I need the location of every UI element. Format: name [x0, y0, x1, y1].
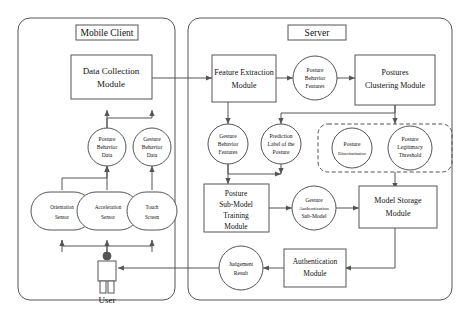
sensor-acceleration-sensor-line-1: Sensor [101, 214, 115, 220]
panel-server-label: Server [305, 28, 331, 38]
box-postures-clustering-module[interactable] [355, 55, 435, 105]
circle-posture-behavior-features-line-0: Posture [307, 67, 324, 73]
box-data-collection-module-line-0: Data Collection [83, 66, 140, 76]
actor-user-label: User [99, 295, 116, 305]
circle-gesture-behavior-data-line-2: Data [147, 152, 158, 158]
circle-gesture-auth-line-2: Sub-Model [301, 213, 327, 219]
circle-posture-behavior-data-line-0: Posture [99, 136, 116, 142]
circle-prediction-label-line-2: Posture [273, 149, 290, 155]
box-authentication-module[interactable] [284, 249, 346, 287]
circle-gesture-auth-line-0: Gesture [305, 197, 323, 203]
circle-posture-discriminator[interactable] [332, 128, 372, 168]
edge-predictionlabel-join [228, 164, 281, 174]
circle-posture-discriminator-line-1: Discriminator [338, 151, 366, 156]
box-feature-extraction-module-line-0: Feature Extraction [214, 68, 273, 77]
circle-prediction-label-line-1: Label of the [267, 141, 295, 147]
sensor-touch-screen[interactable] [127, 192, 177, 230]
box-training-line-2: Training [223, 211, 249, 220]
user-body-icon [98, 261, 116, 281]
sensor-orientation-sensor-line-0: Orientation [50, 204, 74, 210]
circle-judgement-line-1: Result [234, 270, 249, 276]
sensor-touch-screen-line-0: Touch [146, 204, 159, 210]
circle-gesture-behavior-data-line-0: Gesture [143, 136, 161, 142]
circle-posture-behavior-features-line-2: Features [306, 83, 325, 89]
circle-legitimacy-line-1: Legitimacy [397, 144, 423, 150]
circle-gesture-auth-line-1: Authentication [299, 206, 329, 211]
box-feature-extraction-module[interactable] [212, 55, 276, 102]
circle-legitimacy-line-0: Posture [402, 136, 419, 142]
circle-gesture-behavior-data-line-1: Behavior [142, 144, 163, 150]
box-data-collection-module-line-1: Module [97, 79, 125, 89]
box-training-line-0: Posture [225, 189, 248, 198]
circle-posture-behavior-data-line-2: Data [102, 152, 113, 158]
edge-modelstorage-to-authentication [345, 228, 395, 268]
user-head-icon [103, 252, 111, 260]
circle-prediction-label-line-0: Prediction [270, 133, 293, 139]
panel-mobile-client-label: Mobile Client [80, 28, 133, 38]
circle-judgement-line-0: Judgement [229, 261, 254, 267]
box-postures-clustering-module-line-0: Postures [381, 68, 408, 77]
box-data-collection-module[interactable] [71, 55, 152, 99]
edge-layer [62, 78, 395, 268]
sensor-orientation-sensor-line-1: Sensor [55, 214, 69, 220]
box-model-storage-module[interactable] [359, 186, 437, 228]
box-authentication-line-0: Authentication [293, 257, 338, 266]
box-training-line-3: Module [224, 222, 248, 231]
user-leg-right-icon [108, 281, 114, 293]
box-model-storage-line-1: Module [386, 209, 411, 218]
user-leg-left-icon [100, 281, 106, 293]
circle-judgement-result[interactable] [219, 246, 263, 290]
box-authentication-line-1: Module [303, 269, 327, 278]
actor-user: User [98, 252, 116, 305]
architecture-diagram: Mobile Client Server [0, 0, 468, 316]
sensor-acceleration-sensor-line-0: Acceleration [95, 204, 122, 210]
circle-gesture-behavior-features-line-1: Behavior [218, 141, 239, 147]
box-model-storage-line-0: Model Storage [374, 196, 422, 205]
edge-gesturedata-to-datacollection [107, 110, 152, 128]
circle-gesture-behavior-features-line-2: Features [219, 149, 238, 155]
circle-posture-discriminator-line-0: Posture [344, 141, 361, 147]
circle-posture-behavior-features-line-1: Behavior [305, 75, 326, 81]
circle-legitimacy-line-2: Threshold [399, 152, 422, 158]
circle-gesture-behavior-features-line-0: Gesture [219, 133, 237, 139]
circle-posture-behavior-data-line-1: Behavior [97, 144, 118, 150]
box-postures-clustering-module-line-1: Clustering Module [365, 81, 426, 90]
box-training-line-1: Sub-Model [219, 200, 253, 209]
box-feature-extraction-module-line-1: Module [232, 81, 257, 90]
sensor-touch-screen-line-1: Screen [145, 214, 160, 220]
edge-clustering-to-predictionlabel [281, 105, 395, 124]
edge-orientation-to-posturedata [62, 166, 107, 190]
